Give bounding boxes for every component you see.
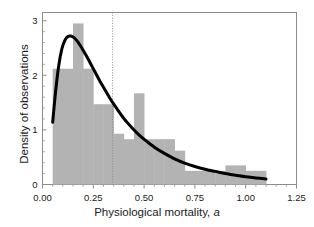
histogram-bar [103,104,114,184]
x-tick-label: 0.50 [135,192,154,203]
histogram-bar [205,171,216,185]
histogram-bar [164,139,175,184]
x-axis-label-variable: a [213,206,219,218]
x-axis-label: Physiological mortality, a [0,206,314,218]
histogram-bar [83,69,94,185]
y-axis-label: Density of observations [18,14,30,194]
y-tick-label: 1 [32,124,37,135]
histogram-bar [185,171,196,185]
x-axis-ticks: 0.000.250.500.751.001.25 [33,185,306,203]
histogram-bar [53,69,64,185]
x-tick-label: 0.75 [186,192,205,203]
y-tick-label: 0 [32,179,37,190]
x-tick-label: 0.00 [33,192,52,203]
histogram-bar [124,139,135,184]
histogram-bar [154,139,165,184]
histogram-bar [114,134,125,185]
y-tick-label: 2 [32,70,37,81]
x-tick-label: 1.00 [236,192,255,203]
histogram-bar [93,104,104,184]
x-axis-label-text: Physiological mortality, [94,206,213,218]
x-tick-label: 1.25 [287,192,306,203]
y-axis-ticks: 0123 [32,15,46,190]
chart-canvas: 0.000.250.500.751.001.25 0123 [0,0,314,227]
y-tick-label: 3 [32,15,37,26]
histogram-bar [195,171,206,185]
histogram-bars [53,23,267,184]
x-tick-label: 0.25 [84,192,103,203]
histogram-bar [175,151,186,185]
histogram-bar [63,69,74,185]
figure: 0.000.250.500.751.001.25 0123 Density of… [0,0,314,227]
